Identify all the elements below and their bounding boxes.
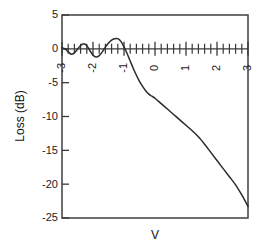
y-tick-label: -20 xyxy=(42,178,58,190)
y-axis-ticks: 50-5-10-15-20-25 xyxy=(42,8,69,223)
y-tick-label: -5 xyxy=(48,76,58,88)
x-tick-label: -1 xyxy=(117,63,129,73)
chart-container: 50-5-10-15-20-25 -3-2-10123 Loss (dB) V xyxy=(0,0,265,248)
y-axis-title: Loss (dB) xyxy=(13,90,27,141)
y-tick-label: 0 xyxy=(52,42,58,54)
x-tick-label: -2 xyxy=(86,63,98,73)
y-tick-label: -10 xyxy=(42,110,58,122)
x-axis xyxy=(62,42,248,56)
y-tick-label: -25 xyxy=(42,211,58,223)
x-tick-label: 0 xyxy=(148,65,160,71)
loss-vs-v-plot: 50-5-10-15-20-25 -3-2-10123 Loss (dB) V xyxy=(0,0,265,248)
x-axis-tick-labels: -3-2-10123 xyxy=(55,63,253,73)
y-tick-label: -15 xyxy=(42,144,58,156)
x-tick-label: 1 xyxy=(179,65,191,71)
x-tick-label: 3 xyxy=(241,65,253,71)
x-tick-label: 2 xyxy=(210,65,222,71)
x-axis-title: V xyxy=(151,228,159,242)
x-tick-label: -3 xyxy=(55,63,67,73)
y-tick-label: 5 xyxy=(52,8,58,20)
